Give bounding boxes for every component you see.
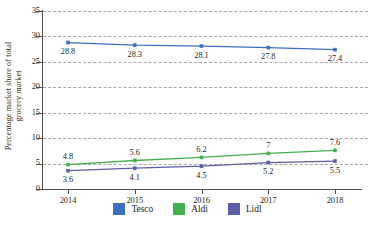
legend-label: Aldi	[191, 204, 208, 214]
legend-swatch-tesco	[113, 203, 125, 215]
data-point-label-tesco: 28.1	[187, 51, 217, 60]
data-point-marker	[200, 164, 204, 168]
data-point-label-lidl: 5.5	[320, 166, 350, 175]
data-point-marker	[133, 159, 137, 163]
data-point-marker	[333, 48, 337, 52]
legend-label: Lidl	[246, 204, 262, 214]
data-point-label-lidl: 3.6	[53, 175, 83, 184]
data-point-marker	[266, 46, 270, 50]
data-point-label-aldi: 5.6	[120, 148, 150, 157]
line-chart: Percentage market share of total grocery…	[0, 0, 375, 230]
legend-item-lidl[interactable]: Lidl	[228, 203, 262, 215]
legend-item-aldi[interactable]: Aldi	[173, 203, 208, 215]
legend-label: Tesco	[131, 204, 153, 214]
legend-swatch-lidl	[228, 203, 240, 215]
data-point-label-aldi: 7	[253, 141, 283, 150]
data-point-marker	[200, 44, 204, 48]
data-point-marker	[266, 152, 270, 156]
data-point-marker	[133, 166, 137, 170]
series-layer	[0, 0, 375, 230]
data-point-label-tesco: 27.4	[320, 54, 350, 63]
data-point-label-aldi: 4.8	[53, 152, 83, 161]
data-point-label-aldi: 6.2	[187, 145, 217, 154]
data-point-marker	[266, 161, 270, 165]
data-point-label-lidl: 4.1	[120, 173, 150, 182]
data-point-marker	[133, 43, 137, 47]
data-point-marker	[66, 169, 70, 173]
legend-item-tesco[interactable]: Tesco	[113, 203, 153, 215]
data-point-label-lidl: 4.5	[187, 171, 217, 180]
data-point-label-lidl: 5.2	[253, 167, 283, 176]
data-point-label-tesco: 27.8	[253, 52, 283, 61]
data-point-marker	[333, 149, 337, 153]
data-point-marker	[200, 156, 204, 160]
data-point-label-tesco: 28.8	[53, 47, 83, 56]
legend-swatch-aldi	[173, 203, 185, 215]
data-point-label-aldi: 7.6	[320, 138, 350, 147]
data-point-marker	[66, 163, 70, 167]
data-point-marker	[66, 41, 70, 45]
chart-legend: TescoAldiLidl	[0, 203, 375, 215]
data-point-label-tesco: 28.3	[120, 50, 150, 59]
data-point-marker	[333, 159, 337, 163]
